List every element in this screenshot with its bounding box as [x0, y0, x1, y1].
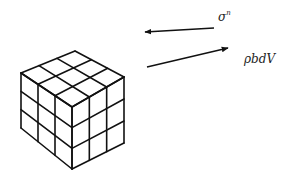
body-force-arrow [147, 48, 228, 67]
left-face-line [21, 128, 72, 169]
sigma-symbol: σ [218, 10, 226, 24]
traction-arrow [145, 28, 214, 32]
left-face-line [21, 110, 72, 149]
left-face-line [21, 91, 72, 127]
sigma-superscript: n [226, 9, 231, 17]
right-face-line [72, 143, 124, 169]
grid-cube [21, 51, 124, 169]
body-force-label: ρbdV [244, 53, 275, 65]
top-face-line [21, 51, 75, 73]
right-face-line [72, 121, 124, 148]
sigma-n-label: σn [218, 11, 231, 23]
diagram-canvas [0, 0, 292, 182]
